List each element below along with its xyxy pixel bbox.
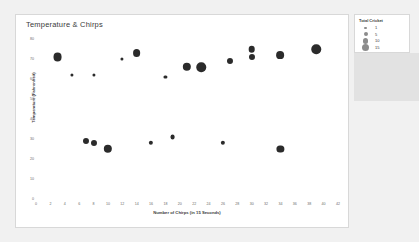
data-point[interactable]	[133, 49, 141, 57]
data-point[interactable]	[221, 141, 225, 145]
x-tick-label: 8	[93, 202, 95, 206]
legend-panel-backdrop	[354, 53, 419, 101]
data-point[interactable]	[149, 141, 153, 145]
chart-title: Temperature & Chirps	[26, 20, 103, 29]
data-point[interactable]	[249, 54, 255, 60]
legend-item-label: 10	[375, 38, 379, 43]
data-point[interactable]	[227, 58, 233, 64]
y-axis: 01020304050607080	[16, 39, 36, 199]
x-tick-label: 30	[250, 202, 254, 206]
data-point[interactable]	[91, 140, 97, 146]
x-tick-label: 16	[149, 202, 153, 206]
data-point[interactable]	[197, 62, 207, 72]
y-tick-label: 80	[30, 37, 34, 41]
legend-bubble-icon	[359, 38, 372, 44]
legend-item-label: 5	[375, 32, 377, 37]
x-tick-label: 20	[178, 202, 182, 206]
data-point[interactable]	[83, 138, 89, 144]
data-point[interactable]	[70, 73, 73, 76]
x-tick-label: 0	[35, 202, 37, 206]
x-tick-label: 42	[336, 202, 340, 206]
data-point[interactable]	[170, 135, 175, 140]
size-legend: Total Cricket 151015	[354, 14, 410, 53]
x-tick-label: 34	[278, 202, 282, 206]
x-tick-label: 18	[163, 202, 167, 206]
legend-bubble-icon	[359, 44, 372, 51]
x-tick-label: 4	[64, 202, 66, 206]
legend-rows: 151015	[359, 25, 405, 51]
data-point[interactable]	[277, 145, 284, 152]
y-tick-label: 70	[30, 57, 34, 61]
x-tick-label: 26	[221, 202, 225, 206]
x-tick-label: 24	[207, 202, 211, 206]
x-tick-label: 2	[49, 202, 51, 206]
y-tick-label: 40	[30, 117, 34, 121]
chart-app: Temperature & Chirps Temperature (Fahren…	[0, 0, 419, 242]
x-tick-label: 6	[78, 202, 80, 206]
x-tick-label: 36	[293, 202, 297, 206]
legend-bubble-icon	[359, 27, 372, 29]
data-point[interactable]	[312, 44, 322, 54]
y-tick-label: 20	[30, 157, 34, 161]
y-tick-label: 60	[30, 77, 34, 81]
data-point[interactable]	[92, 73, 95, 76]
x-axis-title: Number of Chirps (in 15 Seconds)	[36, 210, 338, 215]
x-tick-label: 10	[106, 202, 110, 206]
x-tick-label: 12	[120, 202, 124, 206]
x-tick-label: 40	[322, 202, 326, 206]
x-tick-label: 38	[307, 202, 311, 206]
x-tick-label: 22	[192, 202, 196, 206]
y-tick-label: 0	[32, 197, 34, 201]
x-tick-label: 28	[235, 202, 239, 206]
data-point[interactable]	[53, 53, 62, 62]
y-tick-label: 50	[30, 97, 34, 101]
legend-bubble-icon	[359, 32, 372, 36]
legend-item[interactable]: 15	[359, 44, 405, 51]
chart-card: Temperature & Chirps Temperature (Fahren…	[15, 14, 349, 228]
y-tick-label: 10	[30, 177, 34, 181]
plot-area	[36, 39, 338, 199]
data-point[interactable]	[183, 63, 191, 71]
data-point[interactable]	[164, 75, 167, 78]
data-point[interactable]	[277, 51, 285, 59]
legend-item-label: 1	[375, 25, 377, 30]
x-tick-label: 32	[264, 202, 268, 206]
legend-title: Total Cricket	[359, 18, 405, 23]
legend-item-label: 15	[375, 45, 379, 50]
data-point[interactable]	[104, 145, 112, 153]
data-point[interactable]	[121, 57, 124, 60]
y-tick-label: 30	[30, 137, 34, 141]
x-tick-label: 14	[135, 202, 139, 206]
data-point[interactable]	[248, 46, 255, 53]
